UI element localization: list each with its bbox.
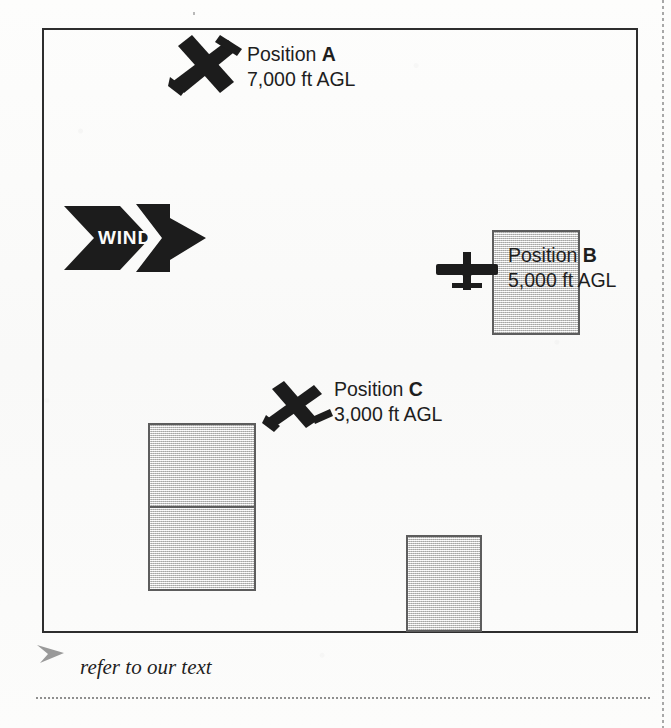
position-a-prefix: Position [247, 43, 322, 65]
page-edge-line [662, 0, 664, 728]
callout-position-a: Position A 7,000 ft AGL [247, 42, 355, 92]
position-c-letter: C [409, 378, 423, 400]
shaded-field-lower-left [148, 423, 256, 591]
position-b-label: Position B [508, 243, 616, 268]
position-b-letter: B [583, 244, 597, 266]
diagram-page: areas to land in are shown as shaded are… [0, 0, 671, 728]
callout-position-c: Position C 3,000 ft AGL [334, 377, 442, 427]
position-a-label: Position A [247, 42, 355, 67]
position-c-label: Position C [334, 377, 442, 402]
callout-position-b: Position B 5,000 ft AGL [508, 243, 616, 293]
position-b-prefix: Position [508, 244, 583, 266]
position-c-prefix: Position [334, 378, 409, 400]
position-c-altitude: 3,000 ft AGL [334, 402, 442, 427]
position-b-altitude: 5,000 ft AGL [508, 268, 616, 293]
wind-arrow-icon: WIND [58, 202, 210, 274]
airplane-climbing-icon [168, 33, 252, 101]
footer-note: refer to our text [80, 655, 212, 680]
position-a-altitude: 7,000 ft AGL [247, 67, 355, 92]
top-caption-text: areas to land in are shown as shaded are… [118, 0, 528, 6]
top-caption: areas to land in are shown as shaded are… [0, 0, 671, 9]
scan-speck [193, 12, 195, 15]
airplane-banked-icon [262, 379, 338, 433]
arrow-right-marker-icon [36, 643, 66, 665]
position-a-letter: A [322, 43, 336, 65]
airplane-head-on-icon [434, 250, 500, 296]
field-divider [150, 506, 254, 508]
shaded-field-lower-right [406, 535, 482, 632]
footer-divider [36, 697, 650, 699]
